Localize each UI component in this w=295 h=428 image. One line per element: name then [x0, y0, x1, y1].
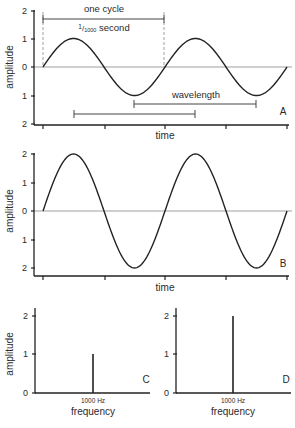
panel-c-ytick-2: 2	[23, 311, 28, 321]
panel-a-ytick-neg2: 2	[22, 119, 27, 129]
panel-b-ylabel: amplitude	[4, 189, 15, 233]
panel-d-ytick-1: 1	[164, 349, 169, 359]
wavelength-bracket-upper	[134, 100, 256, 108]
panel-b-ytick-neg1: 1	[22, 235, 27, 245]
panel-b: 2 1 0 1 2 B time amplitude	[4, 149, 292, 293]
panel-d-ytick-0: 0	[164, 388, 169, 398]
panel-c-ytick-0: 0	[23, 388, 28, 398]
panel-b-ytick-0: 0	[22, 206, 27, 216]
panel-a-ytick-2: 2	[22, 6, 27, 16]
panel-c-hz-label: 1000 Hz	[81, 397, 105, 404]
panel-c-ylabel: amplitude	[4, 332, 15, 376]
panel-c-ytick-1: 1	[23, 349, 28, 359]
panel-a-letter: A	[280, 106, 287, 117]
panel-c-xlabel: frequency	[71, 406, 115, 417]
panel-d: 2 1 0 1000 Hz frequency D	[164, 308, 291, 417]
panel-a: 2 1 0 1 2 one cycle 1/1000 second	[4, 3, 292, 141]
panel-d-xlabel: frequency	[211, 406, 255, 417]
panel-a-ytick-neg1: 1	[22, 91, 27, 101]
panel-d-hz-label: 1000 Hz	[221, 397, 245, 404]
panel-a-ytick-0: 0	[22, 62, 27, 72]
one-cycle-label: one cycle	[84, 3, 124, 14]
panel-b-xlabel: time	[156, 282, 175, 293]
panel-b-ytick-neg2: 2	[22, 263, 27, 273]
wavelength-bracket-lower	[74, 110, 195, 118]
wavelength-label: wavelength	[171, 89, 220, 100]
panel-a-ylabel: amplitude	[4, 45, 15, 89]
panel-a-xlabel: time	[156, 130, 175, 141]
panel-a-ytick-1: 1	[22, 34, 27, 44]
panel-b-letter: B	[280, 258, 287, 269]
panel-c: 2 1 0 1000 Hz frequency C amplitude	[4, 308, 150, 417]
period-label: 1/1000 second	[78, 22, 129, 33]
panel-b-ytick-1: 1	[22, 178, 27, 188]
panel-c-letter: C	[142, 374, 149, 385]
panel-d-letter: D	[282, 374, 289, 385]
sound-wave-diagram: 2 1 0 1 2 one cycle 1/1000 second	[0, 0, 295, 428]
panel-d-ytick-2: 2	[164, 311, 169, 321]
panel-b-ytick-2: 2	[22, 149, 27, 159]
